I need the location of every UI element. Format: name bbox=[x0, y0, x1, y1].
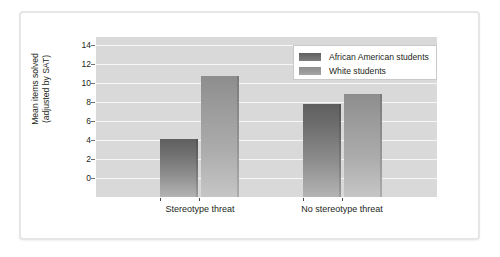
bar-stereotype-threat-african-american[interactable] bbox=[160, 139, 198, 197]
legend: African American students White students bbox=[293, 45, 437, 80]
y-tick-mark-12 bbox=[91, 64, 95, 65]
legend-label-white-students: White students bbox=[329, 66, 386, 76]
x-tick-mark-1 bbox=[160, 198, 161, 201]
y-tick-label-10: 10 bbox=[67, 79, 91, 88]
legend-swatch-african-american-students bbox=[299, 53, 321, 61]
legend-item-white-students[interactable]: White students bbox=[299, 64, 431, 77]
y-tick-label-0: 0 bbox=[67, 174, 91, 183]
bar-chart: Mean items solved (adjusted by SAT) 14 1… bbox=[0, 0, 500, 257]
y-axis-title-line-2: (adjusted by SAT) bbox=[41, 24, 52, 154]
gridline-1 bbox=[96, 178, 437, 179]
gridline-10 bbox=[96, 83, 437, 84]
y-tick-label-6: 6 bbox=[67, 117, 91, 126]
y-tick-label-8: 8 bbox=[67, 98, 91, 107]
y-tick-mark-0 bbox=[91, 178, 95, 179]
bar-no-stereotype-threat-african-american[interactable] bbox=[303, 104, 341, 197]
y-tick-mark-6 bbox=[91, 121, 95, 122]
y-tick-mark-8 bbox=[91, 102, 95, 103]
x-tick-mark-3 bbox=[303, 198, 304, 201]
gridline-4 bbox=[96, 140, 437, 141]
x-tick-mark-2 bbox=[199, 198, 200, 201]
bar-no-stereotype-threat-white[interactable] bbox=[344, 94, 382, 197]
bar-stereotype-threat-white[interactable] bbox=[201, 76, 239, 197]
x-tick-mark-4 bbox=[342, 198, 343, 201]
y-tick-label-2: 2 bbox=[67, 155, 91, 164]
legend-label-african-american-students: African American students bbox=[329, 52, 429, 62]
y-axis-title: Mean items solved (adjusted by SAT) bbox=[30, 24, 52, 154]
legend-swatch-white-students bbox=[299, 67, 321, 75]
gridline-2 bbox=[96, 159, 437, 160]
y-tick-label-12: 12 bbox=[67, 60, 91, 69]
x-category-label-no-stereotype-threat: No stereotype threat bbox=[282, 203, 402, 215]
y-tick-mark-2 bbox=[91, 159, 95, 160]
y-axis-title-line-1: Mean items solved bbox=[30, 24, 41, 154]
y-tick-label-14: 14 bbox=[67, 41, 91, 50]
gridline-8 bbox=[96, 102, 437, 103]
y-tick-mark-10 bbox=[91, 83, 95, 84]
x-category-label-stereotype-threat: Stereotype threat bbox=[140, 203, 260, 215]
y-tick-mark-4 bbox=[91, 140, 95, 141]
gridline-6 bbox=[96, 121, 437, 122]
y-axis-tick-labels: 14 12 10 8 6 4 2 0 bbox=[64, 0, 91, 257]
y-tick-label-4: 4 bbox=[67, 136, 91, 145]
legend-item-african-american-students[interactable]: African American students bbox=[299, 50, 431, 63]
y-tick-mark-14 bbox=[91, 45, 95, 46]
